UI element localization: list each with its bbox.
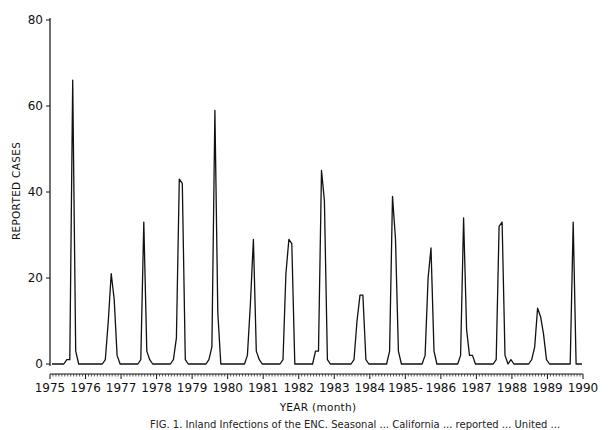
x-tick-label: 1990	[568, 381, 599, 395]
x-tick-label: 1979	[177, 381, 208, 395]
x-tick-label: 1976	[70, 381, 101, 395]
x-tick-label: 1978	[141, 381, 172, 395]
x-tick-label: 1984	[355, 381, 386, 395]
y-axis-title: REPORTED CASES	[10, 142, 22, 240]
y-tick-label: 20	[28, 271, 43, 285]
y-axis: 020406080	[28, 13, 50, 371]
x-tick-label: 1983	[319, 381, 350, 395]
y-tick-label: 60	[28, 99, 43, 113]
x-tick-label: 1986	[426, 381, 457, 395]
x-tick-label: 1977	[106, 381, 137, 395]
x-tick-label: 1985-	[388, 381, 423, 395]
series-line-reported-cases	[52, 80, 582, 364]
x-tick-label: 1980	[212, 381, 243, 395]
x-tick-label: 1981	[248, 381, 279, 395]
x-tick-label: 1989	[532, 381, 563, 395]
y-tick-label: 80	[28, 13, 43, 27]
x-axis-title: YEAR (month)	[279, 401, 357, 413]
x-tick-label: 1975	[35, 381, 66, 395]
y-tick-label: 40	[28, 185, 43, 199]
figure-caption: FIG. 1. Inland Infections of the ENC. Se…	[150, 419, 560, 430]
x-tick-label: 1988	[497, 381, 528, 395]
x-tick-label: 1982	[283, 381, 314, 395]
x-axis: 1975197619771978197919801981198219831984…	[35, 374, 599, 395]
x-tick-label: 1987	[461, 381, 492, 395]
y-tick-label: 0	[35, 357, 43, 371]
